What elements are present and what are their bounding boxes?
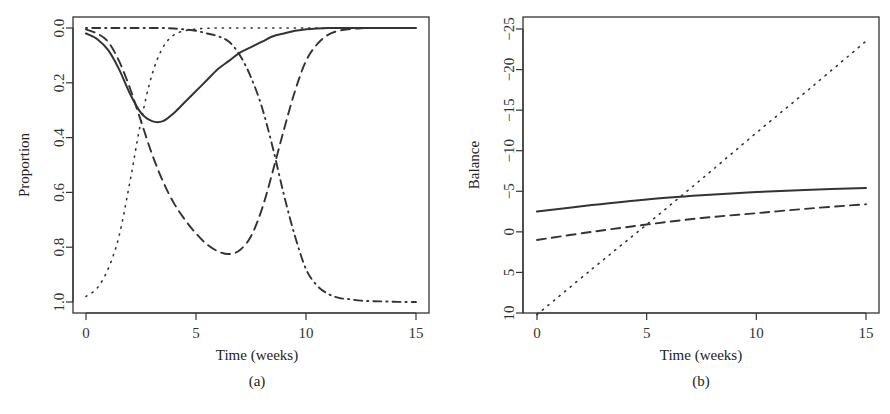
series-dotted-line xyxy=(537,41,866,314)
y-axis-ticks: −25−20−15−10−50510 xyxy=(501,17,523,320)
series-dashed-line xyxy=(86,28,416,254)
y-tick-label: 0.2 xyxy=(51,73,67,92)
y-axis-ticks: 0.00.20.40.60.81.0 xyxy=(51,19,73,312)
y-tick-label: 0.0 xyxy=(51,19,67,38)
panel-b-balance-chart: −25−20−15−10−50510 051015 Time (weeks) (… xyxy=(466,17,879,390)
series-solid-line xyxy=(537,188,866,212)
y-tick-label: 10 xyxy=(501,306,517,321)
x-tick-label: 0 xyxy=(533,325,541,341)
panel-a-proportion-chart: 0.00.20.40.60.81.0 051015 Time (weeks) (… xyxy=(16,17,429,390)
y-tick-label: −15 xyxy=(501,98,517,121)
x-tick-label: 0 xyxy=(82,325,90,341)
y-tick-label: −20 xyxy=(501,58,517,81)
x-tick-label: 15 xyxy=(859,325,874,341)
y-tick-label: 0.8 xyxy=(51,238,67,257)
y-tick-label: 0 xyxy=(501,228,517,236)
figure: 0.00.20.40.60.81.0 051015 Time (weeks) (… xyxy=(0,0,890,414)
plot-frame xyxy=(73,17,429,313)
x-axis-ticks: 051015 xyxy=(533,313,873,341)
x-tick-label: 10 xyxy=(749,325,764,341)
x-tick-label: 5 xyxy=(192,325,200,341)
series-dotted-line xyxy=(86,28,416,297)
x-axis-ticks: 051015 xyxy=(82,313,423,341)
y-tick-label: −5 xyxy=(501,183,517,199)
y-tick-label: −25 xyxy=(501,17,517,40)
panel-caption: (b) xyxy=(692,373,710,390)
plot-frame xyxy=(523,17,879,313)
series-lines xyxy=(537,41,866,314)
series-lines xyxy=(86,28,416,302)
series-dot-dash-line xyxy=(86,28,416,302)
y-tick-label: 5 xyxy=(501,269,517,277)
y-tick-label: −10 xyxy=(501,139,517,162)
panel-caption: (a) xyxy=(249,373,266,390)
x-tick-label: 10 xyxy=(299,325,314,341)
x-tick-label: 15 xyxy=(409,325,424,341)
x-tick-label: 5 xyxy=(643,325,651,341)
y-tick-label: 0.4 xyxy=(51,128,67,147)
y-tick-label: 1.0 xyxy=(51,293,67,312)
x-axis-label: Time (weeks) xyxy=(216,347,298,364)
y-axis-label: Balance xyxy=(466,141,482,190)
x-axis-label: Time (weeks) xyxy=(660,347,742,364)
y-tick-label: 0.6 xyxy=(51,183,67,202)
y-axis-label: Proportion xyxy=(16,132,32,197)
series-dashed-line xyxy=(537,204,866,240)
